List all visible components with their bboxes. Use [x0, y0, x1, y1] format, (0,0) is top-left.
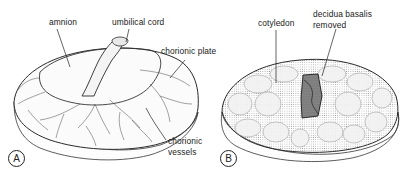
- placenta-diagram: amnion umbilical cord chorionic plate ch…: [0, 0, 409, 179]
- label-chorionic-vessels-line2: vessels: [168, 147, 197, 157]
- label-decidua-basalis-line1: decidua basalis: [313, 9, 372, 19]
- panel-a-marker: A: [8, 150, 25, 167]
- label-amnion: amnion: [49, 17, 77, 27]
- label-chorionic-vessels-line1: chorionic: [168, 136, 202, 146]
- label-cotyledon: cotyledon: [258, 18, 295, 28]
- label-umbilical-cord: umbilical cord: [112, 17, 164, 27]
- label-chorionic-plate: chorionic plate: [161, 46, 216, 56]
- panel-b-marker: B: [220, 150, 237, 167]
- label-decidua-basalis-line2: removed: [313, 20, 346, 30]
